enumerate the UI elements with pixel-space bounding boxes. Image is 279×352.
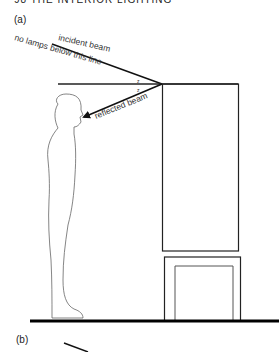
person-silhouette — [48, 94, 83, 318]
angle-mark-upper: z — [137, 78, 140, 84]
glare-diagram: incident beam no lamps below this line r… — [0, 0, 279, 352]
reflected-beam-label: reflected beam — [93, 91, 149, 121]
display-cabinet-base-opening — [175, 266, 233, 321]
display-cabinet-base — [165, 257, 241, 321]
panel-b-line — [64, 343, 88, 352]
display-cabinet-upper — [163, 84, 239, 251]
